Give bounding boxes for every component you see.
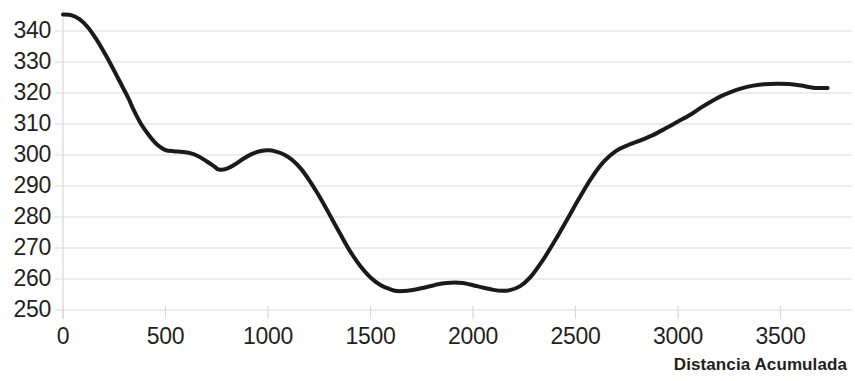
chart-container: 250260270280290300310320330340 050010001… — [0, 0, 855, 381]
y-axis-tick-label: 340 — [0, 19, 51, 42]
x-axis-tick-label: 2000 — [428, 325, 518, 348]
y-axis-tick-label: 270 — [0, 236, 51, 259]
data-series-line — [63, 15, 828, 292]
x-axis-tick-label: 3500 — [736, 325, 826, 348]
x-axis-tick-label: 0 — [18, 325, 108, 348]
chart-plot-area — [0, 0, 855, 381]
x-axis-tick-label: 500 — [121, 325, 211, 348]
x-tick-marks-group — [63, 306, 781, 319]
y-axis-tick-label: 290 — [0, 174, 51, 197]
x-axis-tick-label: 1000 — [223, 325, 313, 348]
x-axis-tick-label: 2500 — [531, 325, 621, 348]
y-axis-tick-label: 300 — [0, 143, 51, 166]
y-axis-tick-label: 330 — [0, 50, 51, 73]
x-axis-tick-label: 3000 — [633, 325, 723, 348]
x-axis-tick-label: 1500 — [326, 325, 416, 348]
y-axis-tick-label: 320 — [0, 81, 51, 104]
y-axis-tick-label: 280 — [0, 205, 51, 228]
y-axis-tick-label: 310 — [0, 112, 51, 135]
x-axis-title: Distancia Acumulada — [674, 355, 847, 375]
y-axis-tick-label: 260 — [0, 267, 51, 290]
y-axis-tick-label: 250 — [0, 298, 51, 321]
gridlines-group — [55, 31, 852, 310]
